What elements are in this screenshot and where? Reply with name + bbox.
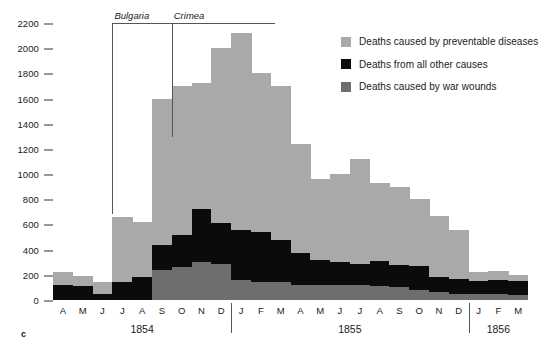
legend-label: Deaths caused by preventable diseases — [359, 36, 538, 47]
legend-label: Deaths caused by war wounds — [359, 81, 497, 92]
chart-panel: 0200400600800100012001400160018002000220… — [0, 0, 548, 357]
bracket-label-crimea: Crimea — [174, 10, 205, 21]
legend-label: Deaths from all other causes — [359, 59, 488, 70]
panel-letter: c — [21, 329, 26, 339]
legend-swatch-prev — [341, 37, 351, 47]
legend-item-wounds: Deaths caused by war wounds — [341, 81, 538, 92]
legend: Deaths caused by preventable diseasesDea… — [341, 36, 538, 104]
legend-swatch-other — [341, 59, 351, 69]
bracket-label-bulgaria: Bulgaria — [114, 10, 149, 21]
legend-item-prev: Deaths caused by preventable diseases — [341, 36, 538, 47]
legend-item-other: Deaths from all other causes — [341, 59, 538, 70]
legend-swatch-wounds — [341, 82, 351, 92]
bracket-crimea — [172, 23, 275, 137]
